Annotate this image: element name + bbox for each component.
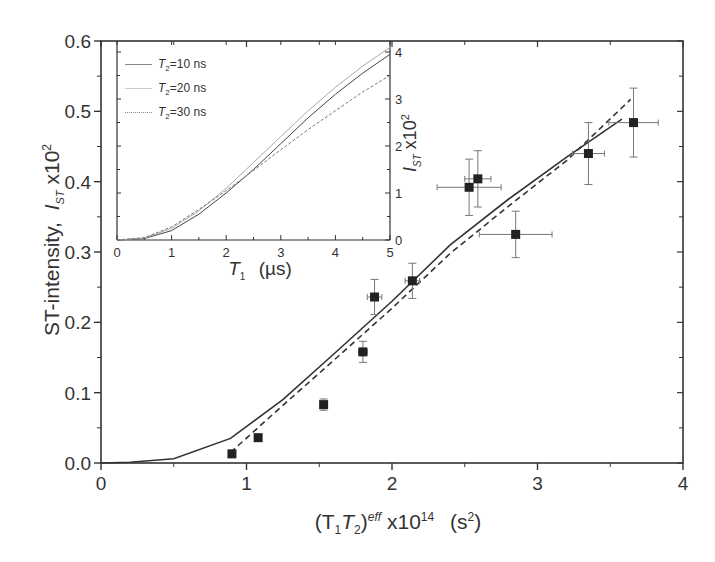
x-tick-label: 2: [387, 473, 398, 494]
x-axis-label-close: ): [361, 510, 368, 533]
inset-x-label-sub: 1: [240, 271, 246, 282]
y-axis-label-symbol: I: [40, 204, 63, 210]
x-tick-label: 0: [96, 473, 107, 494]
y-tick-label: 0.0: [65, 453, 91, 474]
inset-y-axis-label: IST x102: [399, 98, 425, 188]
y-axis-label-sup: 2: [40, 144, 54, 151]
y-axis-label-sub: ST: [54, 190, 66, 204]
inset-x-tick-label: 4: [332, 245, 339, 260]
inset-y-label-sub: ST: [412, 154, 423, 167]
inset-x-label-unit: (µs): [259, 258, 292, 279]
data-point-marker: [319, 400, 328, 409]
legend-swatch-solid: [125, 64, 152, 65]
inset-x-tick-label: 5: [386, 245, 393, 260]
inset-y-label-sup: 2: [399, 114, 411, 120]
data-point-marker: [358, 347, 367, 356]
data-point-marker: [465, 183, 474, 192]
legend-item-t2-30: T2=30 ns: [125, 103, 206, 127]
x-tick-label: 3: [532, 473, 543, 494]
data-point-marker: [227, 449, 236, 458]
chart: 012340.00.10.20.30.40.50.601234501234: [0, 0, 715, 562]
inset-x-axis-label: T1 (µs): [210, 258, 310, 282]
inset-legend: T2=10 ns T2=20 ns T2=30 ns: [125, 55, 206, 127]
x-axis-label-t2: T: [341, 510, 354, 533]
legend-text: =10 ns: [170, 57, 206, 71]
x-axis-label-open: (T: [315, 510, 335, 533]
y-axis-label: ST-intensity, IST x102: [40, 90, 70, 390]
inset-y-tick-label: 0: [395, 233, 402, 248]
inset-y-label-symbol: I: [400, 167, 420, 172]
inset-x-label-symbol: T: [228, 258, 240, 279]
x-axis-label-exp: 14: [421, 510, 434, 524]
inset-y-label-tail: x10: [400, 120, 420, 149]
x-axis-label-unit: (s: [450, 510, 468, 533]
x-tick-label: 4: [678, 473, 689, 494]
inset-x-tick-label: 0: [113, 245, 120, 260]
data-point-marker: [629, 118, 638, 127]
y-axis-label-text: ST-intensity,: [40, 222, 63, 336]
data-point-marker: [511, 230, 520, 239]
x-axis-label: (T1T2)eff x1014 (s2): [238, 510, 558, 537]
data-point-marker: [254, 433, 263, 442]
legend-swatch-light: [125, 88, 152, 89]
x-axis-label-unit-close: ): [474, 510, 481, 533]
inset-y-tick-label: 4: [395, 45, 402, 60]
legend-item-t2-20: T2=20 ns: [125, 79, 206, 103]
inset-y-tick-label: 1: [395, 186, 402, 201]
legend-text: =20 ns: [170, 81, 206, 95]
legend-text: =30 ns: [170, 105, 206, 119]
y-tick-label: 0.6: [65, 31, 91, 52]
x-axis-label-tail: x10: [381, 510, 421, 533]
x-axis-label-eff: eff: [368, 510, 381, 524]
x-axis-label-sub2: 2: [354, 523, 361, 537]
data-point-marker: [408, 276, 417, 285]
inset-x-tick-label: 1: [168, 245, 175, 260]
solid-fit-line: [101, 119, 622, 463]
data-point-marker: [473, 174, 482, 183]
data-point-marker: [370, 293, 379, 302]
legend-swatch-dotted: [125, 112, 152, 113]
data-point-marker: [584, 149, 593, 158]
y-axis-label-tail: x10: [40, 151, 63, 185]
x-tick-label: 1: [241, 473, 252, 494]
legend-item-t2-10: T2=10 ns: [125, 55, 206, 79]
